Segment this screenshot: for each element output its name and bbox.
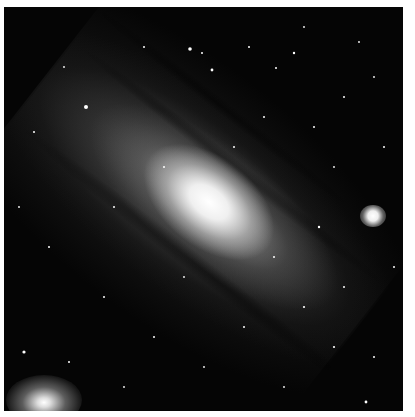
star-field <box>4 7 403 411</box>
galaxy-photo <box>4 7 403 411</box>
